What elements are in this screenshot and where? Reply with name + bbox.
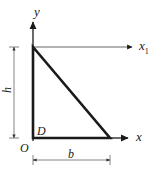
height-dimension-label: h bbox=[1, 87, 13, 93]
origin-label: O bbox=[20, 142, 29, 154]
y-axis-label: y bbox=[34, 5, 40, 18]
x1-axis-label-subscript: 1 bbox=[145, 47, 149, 56]
base-dimension-label: b bbox=[68, 148, 74, 160]
x-axis-label: x bbox=[136, 130, 142, 143]
figure-container: y x1 x D O b h bbox=[0, 0, 160, 177]
triangle-region-label: D bbox=[37, 125, 46, 137]
x1-axis-label: x1 bbox=[139, 39, 149, 56]
